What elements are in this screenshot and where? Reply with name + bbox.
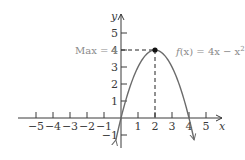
chart-svg: −5−4−3−2−112345−112345 x y Max = 4 f(x) … xyxy=(0,0,245,160)
y-tick-label: 5 xyxy=(111,27,118,40)
x-tick-label: 5 xyxy=(203,120,210,133)
x-tick-label: −3 xyxy=(62,120,78,133)
function-label: f(x) = 4x − x2 xyxy=(175,45,245,57)
max-label: Max = 4 xyxy=(75,45,118,56)
parabola-chart: −5−4−3−2−112345−112345 x y Max = 4 f(x) … xyxy=(0,0,245,160)
y-tick-label: 1 xyxy=(111,95,118,108)
y-tick-label: −1 xyxy=(102,129,118,142)
vertex-point xyxy=(152,47,157,52)
function-label-body: (x) = 4x − x xyxy=(180,46,241,57)
y-tick-label: 3 xyxy=(111,61,118,74)
x-tick-label: −2 xyxy=(79,120,95,133)
y-tick-label: 2 xyxy=(111,78,118,91)
x-tick-label: 3 xyxy=(169,120,176,133)
x-tick-label: 1 xyxy=(135,120,142,133)
x-tick-label: −5 xyxy=(28,120,44,133)
y-axis-label: y xyxy=(110,10,118,23)
x-tick-label: −4 xyxy=(45,120,61,133)
x-tick-label: 2 xyxy=(152,120,159,133)
function-label-exponent: 2 xyxy=(240,45,244,53)
x-axis-label: x xyxy=(219,120,226,133)
